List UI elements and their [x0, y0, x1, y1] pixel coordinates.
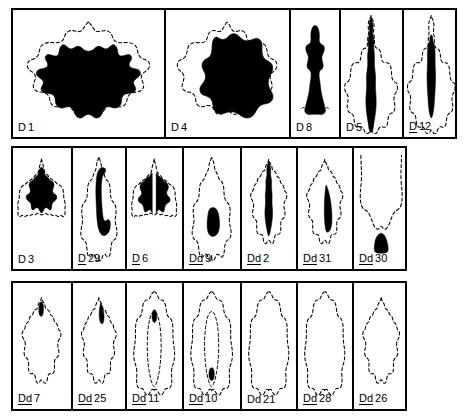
blot-area-label: D3 — [18, 253, 34, 265]
blot-label-number: 11 — [148, 392, 159, 404]
blot-cell-dd7[interactable]: Dd7 — [13, 283, 71, 409]
inkblot-figure — [13, 283, 71, 409]
blot-cell-d29[interactable]: D29 — [71, 148, 125, 269]
blot-label-prefix: Dd — [189, 392, 203, 405]
blot-label-prefix: Dd — [132, 392, 146, 405]
inkblot-figure — [127, 148, 182, 269]
blot-label-prefix: Dd — [303, 252, 317, 265]
blot-label-number: 7 — [34, 392, 40, 404]
blot-area-label: Dd21 — [247, 393, 275, 405]
inkblot-figure — [341, 10, 402, 137]
blot-label-number: 12 — [419, 120, 431, 132]
blot-cell-dd2[interactable]: Dd2 — [240, 148, 296, 269]
blot-area-label: D6 — [132, 252, 148, 265]
blot-label-prefix: D — [171, 121, 179, 133]
blot-cell-dd11[interactable]: Dd11 — [125, 283, 182, 409]
blot-label-number: 9 — [205, 252, 211, 264]
blot-label-prefix: Dd — [247, 252, 261, 265]
blot-label-prefix: Dd — [359, 252, 373, 265]
blot-cell-d4[interactable]: D4 — [164, 10, 289, 137]
blot-cell-dd30[interactable]: Dd30 — [352, 148, 409, 269]
blot-area-label: D4 — [171, 121, 187, 133]
blot-label-prefix: D — [132, 252, 140, 265]
inkblot-figure — [127, 283, 182, 409]
blot-area-label: D1 — [18, 121, 34, 133]
blot-label-number: 25 — [94, 392, 106, 404]
blot-area-label: Dd10 — [189, 392, 217, 405]
blot-label-prefix: Dd — [18, 392, 32, 405]
inkblot-figure — [184, 283, 240, 409]
blot-label-number: 30 — [375, 252, 387, 264]
blot-cell-d5[interactable]: D5 — [339, 10, 402, 137]
blot-label-number: 8 — [306, 121, 312, 133]
inkblot-figure — [298, 148, 352, 269]
blot-row: D1D4D8D5D12 — [11, 8, 457, 139]
blot-label-number: 29 — [88, 252, 100, 264]
blot-label-prefix: D — [409, 120, 417, 133]
blot-label-prefix: D — [296, 121, 304, 133]
inkblot-figure — [13, 10, 164, 137]
blot-area-label: D8 — [296, 121, 312, 133]
blot-cell-dd26[interactable]: Dd26 — [352, 283, 409, 409]
inkblot-figure — [13, 148, 71, 269]
blot-row: D3D29D6Dd9Dd2Dd31Dd30 — [11, 146, 407, 271]
blot-label-number: 10 — [205, 392, 217, 404]
blot-label-number: 6 — [142, 252, 148, 264]
blot-area-label: Dd30 — [359, 252, 387, 265]
blot-area-label: Dd28 — [303, 392, 331, 405]
blot-label-prefix: D — [18, 121, 26, 133]
blot-area-label: Dd25 — [78, 392, 106, 405]
blot-label-prefix: D — [18, 253, 26, 265]
inkblot-figure — [73, 148, 125, 269]
blot-cell-dd28[interactable]: Dd28 — [296, 283, 352, 409]
blot-label-prefix: Dd — [303, 392, 317, 405]
inkblot-figure — [404, 10, 459, 137]
blot-area-label: Dd31 — [303, 252, 331, 265]
blot-label-number: 3 — [28, 253, 34, 265]
blot-cell-d8[interactable]: D8 — [289, 10, 339, 137]
blot-label-prefix: Dd — [78, 392, 92, 405]
blot-label-prefix: Dd — [359, 392, 373, 405]
inkblot-figure — [166, 10, 289, 137]
blot-cell-dd31[interactable]: Dd31 — [296, 148, 352, 269]
blot-area-label: Dd11 — [132, 392, 159, 405]
blot-label-number: 2 — [263, 252, 269, 264]
blot-label-number: 21 — [263, 393, 275, 405]
blot-area-label: Dd26 — [359, 392, 387, 405]
blot-label-prefix: D — [78, 252, 86, 265]
blot-label-number: 1 — [28, 121, 34, 133]
inkblot-figure — [242, 283, 296, 409]
blot-label-number: 31 — [319, 252, 331, 264]
blot-label-number: 4 — [181, 121, 187, 133]
blot-cell-dd21[interactable]: Dd21 — [240, 283, 296, 409]
blot-cell-dd10[interactable]: Dd10 — [182, 283, 240, 409]
blot-label-prefix: Dd — [189, 252, 203, 265]
inkblot-figure — [73, 283, 125, 409]
blot-area-label: D5 — [346, 121, 362, 133]
inkblot-figure — [291, 10, 339, 137]
blot-cell-dd9[interactable]: Dd9 — [182, 148, 240, 269]
blot-area-label: D12 — [409, 120, 431, 133]
blot-label-number: 5 — [356, 121, 362, 133]
rorschach-location-chart: D1D4D8D5D12D3D29D6Dd9Dd2Dd31Dd30Dd7Dd25D… — [0, 0, 465, 418]
inkblot-figure — [184, 148, 240, 269]
blot-cell-d3[interactable]: D3 — [13, 148, 71, 269]
blot-label-prefix: D — [346, 121, 354, 133]
blot-area-label: Dd2 — [247, 252, 269, 265]
blot-cell-d12[interactable]: D12 — [402, 10, 459, 137]
blot-area-label: Dd7 — [18, 392, 40, 405]
blot-label-prefix: Dd — [247, 393, 261, 405]
blot-area-label: D29 — [78, 252, 100, 265]
blot-cell-d1[interactable]: D1 — [13, 10, 164, 137]
blot-cell-d6[interactable]: D6 — [125, 148, 182, 269]
inkblot-figure — [298, 283, 352, 409]
inkblot-figure — [354, 148, 409, 269]
blot-area-label: Dd9 — [189, 252, 211, 265]
blot-cell-dd25[interactable]: Dd25 — [71, 283, 125, 409]
blot-row: Dd7Dd25Dd11Dd10Dd21Dd28Dd26 — [11, 281, 407, 411]
blot-label-number: 26 — [375, 392, 387, 404]
blot-label-number: 28 — [319, 392, 331, 404]
inkblot-figure — [354, 283, 409, 409]
inkblot-figure — [242, 148, 296, 269]
